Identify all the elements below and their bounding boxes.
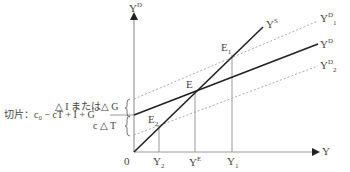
demand-curve-label: YD: [320, 38, 333, 50]
point-e2-label: E2: [148, 114, 158, 128]
keynesian-cross-diagram: [0, 0, 350, 172]
demand-curve-1-label: YD1: [320, 12, 337, 27]
tick-y1-label: Y1: [227, 156, 238, 170]
tick-y2-label: Y2: [153, 156, 164, 170]
annotation-c-delta-t: c △ T: [93, 121, 116, 131]
origin-label: 0: [124, 156, 130, 167]
x-axis-label: Y: [322, 146, 330, 157]
y-axis-label: YD: [129, 2, 142, 14]
annotation-intercept: 切片：c₀ − cT + I + G: [4, 110, 95, 120]
brace-c-delta-t: [125, 116, 130, 136]
demand-curve-2-label: YD2: [320, 59, 337, 74]
point-e1-label: E1: [221, 42, 231, 56]
supply-curve-label: YS: [266, 18, 278, 30]
brace-delta-ig: [125, 99, 130, 117]
tick-ye-label: YE: [189, 156, 201, 168]
demand-curve-1: [134, 21, 318, 99]
point-e-label: E: [186, 79, 193, 90]
